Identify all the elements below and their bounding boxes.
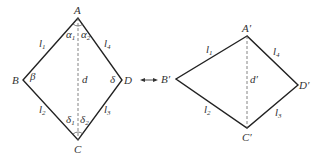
vertex-d-prime-label: D′	[298, 79, 310, 91]
angle-delta1-label: δ1	[66, 113, 75, 127]
diagonal-d-prime-label: d′	[250, 73, 259, 85]
left-quadrilateral: A B C D l1 l2 l3 l4 d α1 α2 β δ δ1 δ2	[12, 4, 132, 155]
angle-alpha2-label: α2	[81, 28, 91, 42]
vertex-a-prime-label: A′	[241, 22, 252, 34]
double-arrow-icon	[140, 78, 158, 82]
angle-alpha1-label: α1	[66, 28, 75, 42]
vertex-b-label: B	[12, 74, 19, 86]
vertex-d-label: D	[123, 74, 132, 86]
side-l1-label: l1	[39, 37, 46, 51]
side-l2-label: l2	[39, 103, 46, 117]
vertex-c-prime-label: C′	[242, 131, 252, 143]
side-l4-label: l4	[104, 37, 111, 51]
side-l4-prime-label: l4	[273, 45, 280, 59]
side-l3-label: l3	[104, 103, 111, 117]
vertex-c-label: C	[74, 143, 82, 155]
vertex-b-prime-label: B′	[161, 73, 171, 85]
side-l3-prime-label: l3	[275, 106, 282, 120]
angle-beta-label: β	[29, 70, 36, 82]
side-l2-prime-label: l2	[204, 103, 211, 117]
right-quadrilateral: A′ B′ C′ D′ l1 l2 l3 l4 d′	[161, 22, 310, 143]
quadrilateral-transformation-diagram: A B C D l1 l2 l3 l4 d α1 α2 β δ δ1 δ2 A′…	[0, 0, 321, 156]
angle-delta-label: δ	[110, 73, 116, 85]
angle-delta2-label: δ2	[80, 113, 89, 127]
vertex-a-label: A	[73, 4, 81, 16]
diagonal-d-label: d	[82, 73, 88, 85]
side-l1-prime-label: l1	[206, 43, 213, 57]
